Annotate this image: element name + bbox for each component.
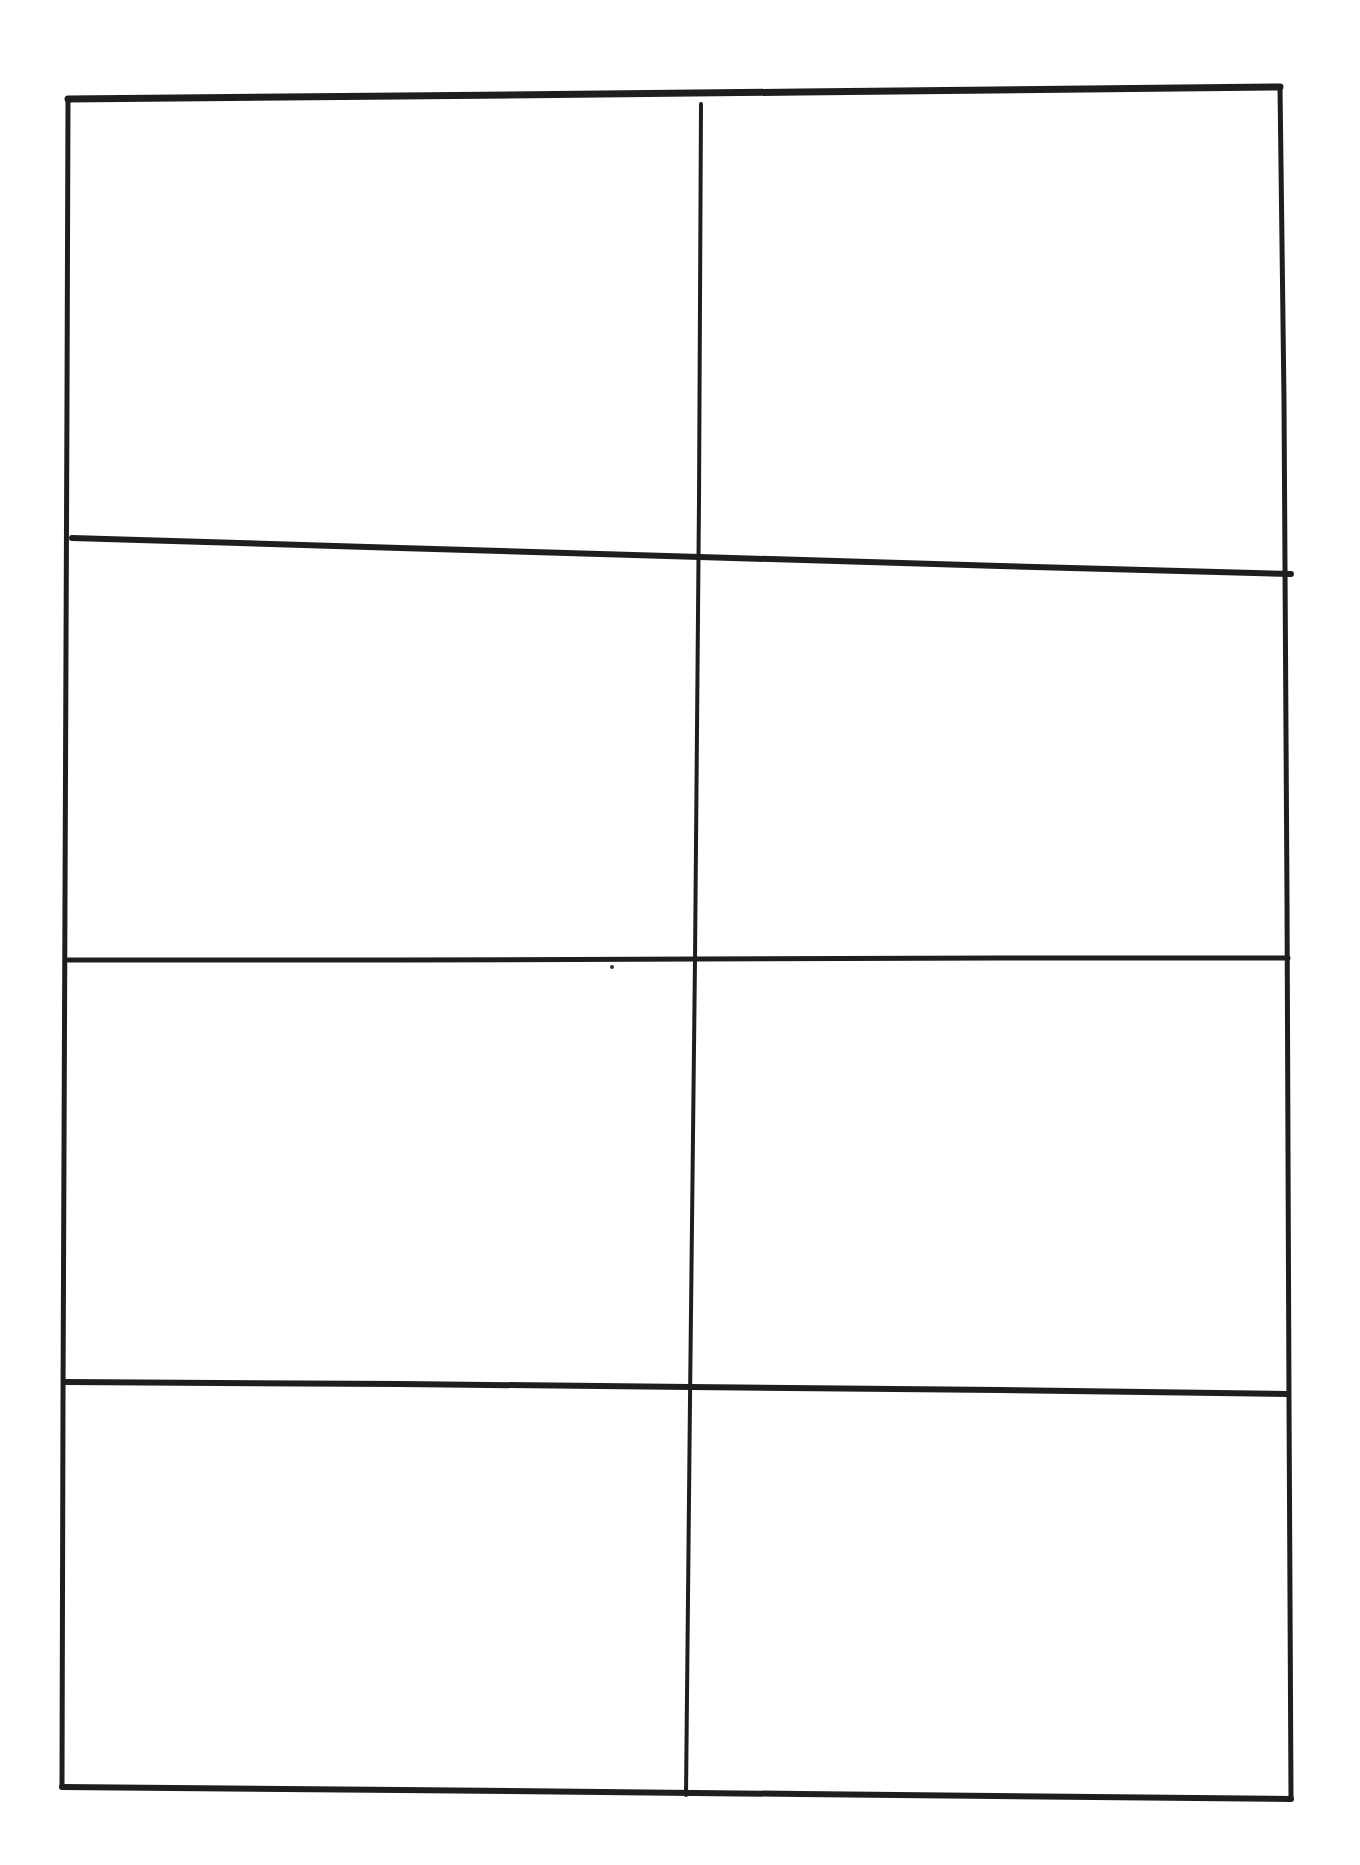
border-left (62, 99, 68, 1787)
border-top (68, 87, 1280, 99)
border-right (1280, 87, 1291, 1799)
horizontal-divider-1 (72, 538, 1291, 574)
horizontal-divider-2 (68, 958, 1288, 960)
vertical-divider (686, 104, 701, 1795)
hand-drawn-grid (0, 0, 1360, 1865)
stray-mark (610, 965, 614, 969)
border-bottom (62, 1787, 1291, 1799)
horizontal-divider-3 (66, 1382, 1288, 1394)
